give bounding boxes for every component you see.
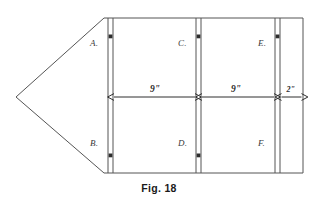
dimension-label-second: 9" bbox=[229, 84, 243, 94]
figure-container: A. B. C. D. E. F. 9" 9" 2" Fig. 18 bbox=[0, 0, 318, 204]
panel-label-e: E. bbox=[258, 38, 266, 48]
panel-label-c: C. bbox=[178, 38, 187, 48]
fold-lines-group bbox=[108, 18, 280, 173]
panel-label-d: D. bbox=[178, 138, 187, 148]
panel-label-a: A. bbox=[90, 38, 98, 48]
score-mark-top-2 bbox=[197, 35, 201, 39]
figure-caption: Fig. 18 bbox=[0, 182, 318, 194]
technical-drawing bbox=[0, 0, 318, 204]
panel-label-b: B. bbox=[90, 138, 98, 148]
score-mark-top-3 bbox=[276, 35, 280, 39]
dimension-label-third: 2" bbox=[286, 85, 295, 94]
dimension-label-first: 9" bbox=[148, 84, 162, 94]
score-mark-bottom-2 bbox=[197, 154, 201, 158]
panel-label-f: F. bbox=[258, 138, 265, 148]
score-mark-top-1 bbox=[109, 35, 113, 39]
score-marks-group bbox=[109, 35, 280, 158]
score-mark-bottom-1 bbox=[109, 154, 113, 158]
